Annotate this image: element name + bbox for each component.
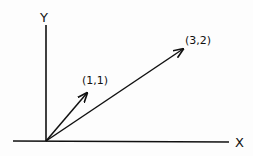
vector-diagram: Y X (1,1) (3,2) bbox=[0, 0, 253, 156]
y-axis-label: Y bbox=[39, 10, 48, 25]
diagram-svg: Y X (1,1) (3,2) bbox=[0, 0, 253, 156]
x-axis bbox=[13, 141, 229, 142]
vector-label-1-1: (1,1) bbox=[82, 74, 108, 87]
x-axis-label: X bbox=[235, 135, 244, 150]
vector-label-3-2: (3,2) bbox=[185, 34, 211, 47]
vector-3-2 bbox=[46, 49, 183, 141]
